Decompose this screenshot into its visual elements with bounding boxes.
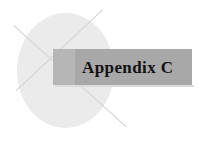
banner-shadow — [55, 85, 194, 87]
title-banner: Appendix C — [53, 49, 192, 85]
appendix-cover-page: Appendix C — [0, 0, 201, 145]
page-title: Appendix C — [82, 59, 173, 76]
banner-lead-segment — [53, 49, 75, 85]
